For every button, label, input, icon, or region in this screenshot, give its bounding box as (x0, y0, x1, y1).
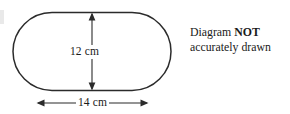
note-line-1-emphasis: NOT (234, 25, 260, 39)
note-line-1-prefix: Diagram (190, 25, 234, 39)
width-dimension-label: 14 cm (76, 97, 109, 109)
height-dimension-label: 12 cm (68, 45, 101, 59)
diagram-canvas: 12 cm 14 cm Diagram NOT accurately drawn (0, 0, 290, 114)
not-to-scale-note: Diagram NOT accurately drawn (190, 25, 288, 55)
note-line-2: accurately drawn (190, 40, 288, 55)
geometry-figure (0, 0, 290, 114)
note-line-1: Diagram NOT (190, 25, 288, 40)
